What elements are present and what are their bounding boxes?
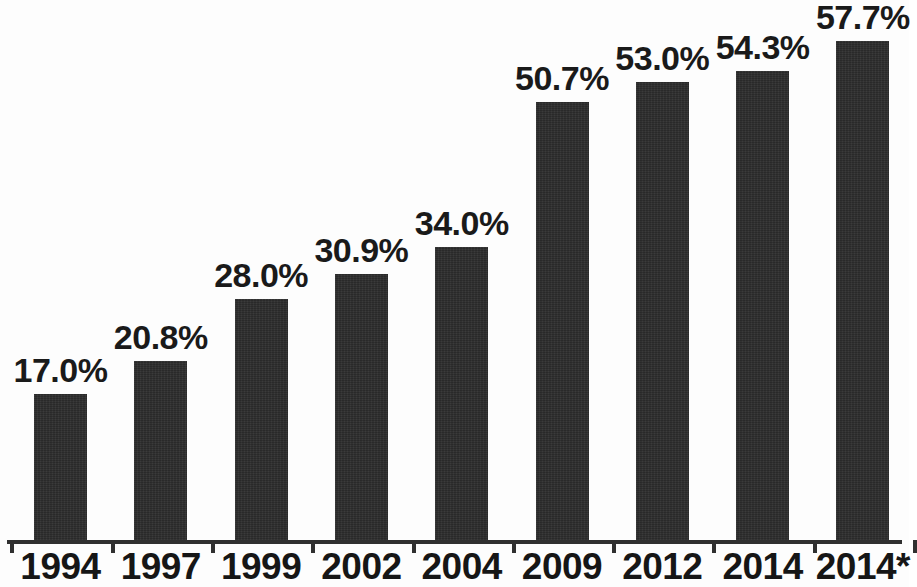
x-axis-label-2014-star: 2014* [813, 547, 913, 587]
x-axis-label-1999: 1999 [211, 547, 311, 587]
x-axis-tick [612, 540, 616, 553]
bar-group: 28.0% [235, 1, 288, 542]
bar [335, 274, 388, 542]
x-axis-label-2009: 2009 [512, 547, 612, 587]
bar-group: 53.0% [636, 1, 689, 542]
x-axis-tick-labels: 199419971999200220042009201220142014* [0, 547, 909, 587]
x-axis-label-2012: 2012 [612, 547, 712, 587]
bar [34, 394, 87, 542]
bar-group: 57.7% [836, 1, 889, 542]
bar-group: 30.9% [335, 1, 388, 542]
bar-value-label: 17.0% [14, 353, 108, 387]
x-axis-tick [311, 540, 315, 553]
bar [536, 102, 589, 542]
x-axis-tick [10, 540, 14, 553]
bar [235, 299, 288, 542]
x-axis-label-2004: 2004 [412, 547, 512, 587]
x-axis-label-2014: 2014 [712, 547, 812, 587]
bar-group: 54.3% [736, 1, 789, 542]
bar-value-label: 30.9% [314, 233, 408, 267]
x-axis-tick [712, 540, 716, 553]
bar-value-label: 54.3% [716, 30, 810, 64]
x-axis-tick [111, 540, 115, 553]
x-axis-tick [211, 540, 215, 553]
bar [134, 361, 187, 542]
bar-value-label: 57.7% [816, 0, 910, 34]
bar-value-label: 20.8% [114, 320, 208, 354]
x-axis-tick [512, 540, 516, 553]
x-axis-tick [813, 540, 817, 553]
bar-group: 50.7% [536, 1, 589, 542]
bar-value-label: 53.0% [615, 41, 709, 75]
x-axis-line [7, 540, 902, 544]
bar-value-label: 50.7% [515, 61, 609, 95]
x-axis-label-2002: 2002 [311, 547, 411, 587]
plot-area: 17.0%20.8%28.0%30.9%34.0%50.7%53.0%54.3%… [0, 0, 909, 542]
bar [736, 71, 789, 542]
bar-group: 20.8% [134, 1, 187, 542]
x-axis-tick [913, 540, 917, 553]
x-axis-label-1997: 1997 [111, 547, 211, 587]
bar-group: 34.0% [435, 1, 488, 542]
bar-group: 17.0% [34, 1, 87, 542]
bar-value-label: 28.0% [214, 258, 308, 292]
x-axis-label-1994: 1994 [10, 547, 110, 587]
bar [636, 82, 689, 542]
bar-value-label: 34.0% [415, 206, 509, 240]
bar [836, 41, 889, 542]
bar [435, 247, 488, 542]
x-axis-tick [412, 540, 416, 553]
